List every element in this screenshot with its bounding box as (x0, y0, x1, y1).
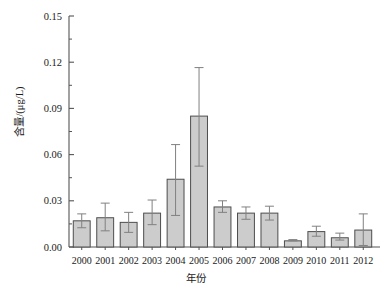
x-tick-labels: 2000200120022003200420052006200720082009… (72, 255, 374, 266)
plot-area: 0.000.030.060.090.120.15 200020012002200… (0, 0, 392, 292)
x-tick-2007: 2007 (236, 255, 256, 266)
x-tick-2009: 2009 (283, 255, 303, 266)
svg-text:0.06: 0.06 (44, 149, 62, 160)
bar-2006 (214, 207, 231, 247)
svg-text:0.03: 0.03 (44, 195, 62, 206)
x-tick-2011: 2011 (330, 255, 350, 266)
x-tick-2001: 2001 (95, 255, 115, 266)
svg-text:0.12: 0.12 (44, 57, 62, 68)
svg-text:0.15: 0.15 (44, 11, 62, 22)
chart-figure: 含量/(μg/L) 年份 0.000.030.060.090.120.15 20… (0, 0, 392, 292)
x-tick-2008: 2008 (259, 255, 279, 266)
bar-2009 (284, 241, 301, 247)
y-tick-marks (69, 16, 74, 247)
y-tick-labels: 0.000.030.060.090.120.15 (44, 11, 62, 253)
x-tick-2000: 2000 (72, 255, 92, 266)
x-tick-2006: 2006 (213, 255, 233, 266)
x-tick-2005: 2005 (189, 255, 209, 266)
x-tick-2012: 2012 (353, 255, 373, 266)
x-tick-2002: 2002 (119, 255, 139, 266)
x-tick-2004: 2004 (166, 255, 186, 266)
svg-text:0.00: 0.00 (44, 242, 62, 253)
x-tick-2003: 2003 (142, 255, 162, 266)
error-bar-2009 (288, 240, 297, 241)
svg-text:0.09: 0.09 (44, 103, 62, 114)
bar-series (73, 116, 371, 247)
x-tick-2010: 2010 (306, 255, 326, 266)
